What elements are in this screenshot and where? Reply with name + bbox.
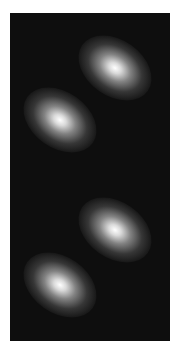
bright-spot-3 [66,184,164,276]
bright-spot-4 [11,239,109,331]
intensity-image [10,13,170,341]
